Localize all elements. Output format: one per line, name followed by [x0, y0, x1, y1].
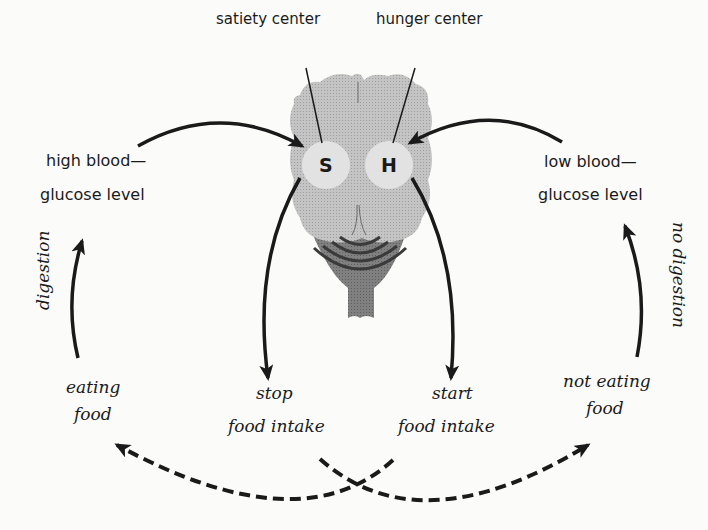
- satiety-center-label: satiety center: [216, 10, 321, 28]
- high-glucose-label-line2: glucose level: [40, 185, 145, 204]
- dashed-arrows: [117, 445, 588, 500]
- diagram-canvas: S H satiety center hunger center high bl…: [0, 0, 708, 530]
- high-glucose-label-line1: high blood—: [46, 151, 146, 170]
- brain-illustration: S H: [290, 74, 432, 318]
- eating-food-label-line1: eating: [66, 377, 120, 397]
- low-glucose-label-line2: glucose level: [538, 185, 643, 204]
- arrow-high-glucose-to-satiety: [138, 123, 302, 146]
- arrow-digestion: [72, 241, 82, 358]
- digestion-label: digestion: [33, 231, 53, 310]
- eating-food-label-line2: food: [72, 404, 112, 424]
- hunger-regulation-diagram: S H satiety center hunger center high bl…: [0, 0, 708, 530]
- satiety-letter: S: [319, 154, 333, 176]
- arrow-low-glucose-to-hunger: [410, 120, 562, 143]
- stop-food-intake-label-line1: stop: [256, 383, 293, 403]
- low-glucose-label-line1: low blood—: [544, 152, 637, 171]
- not-eating-food-label-line1: not eating: [563, 371, 651, 391]
- hunger-letter: H: [381, 154, 397, 176]
- start-food-intake-label-line1: start: [432, 383, 473, 403]
- no-digestion-label: no digestion: [669, 222, 689, 328]
- dashed-arrow-stop-to-not-eating: [320, 445, 588, 500]
- arrow-satiety-to-stop: [264, 178, 300, 378]
- start-food-intake-label-line2: food intake: [396, 416, 495, 436]
- dashed-arrow-start-to-eating: [117, 445, 393, 499]
- arrow-no-digestion: [625, 226, 641, 357]
- hunger-center-label: hunger center: [376, 10, 483, 28]
- stop-food-intake-label-line2: food intake: [226, 416, 325, 436]
- not-eating-food-label-line2: food: [584, 398, 624, 418]
